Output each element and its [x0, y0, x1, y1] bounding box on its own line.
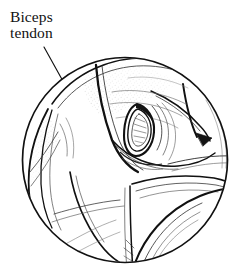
label-line-1: Biceps [10, 8, 53, 25]
label-line-2: tendon [10, 24, 53, 41]
illustration-page: Biceps tendon [0, 0, 239, 278]
arthroscopic-illustration: Biceps tendon [0, 0, 239, 278]
label-biceps-tendon: Biceps tendon [10, 8, 53, 41]
scope-field [23, 58, 239, 273]
